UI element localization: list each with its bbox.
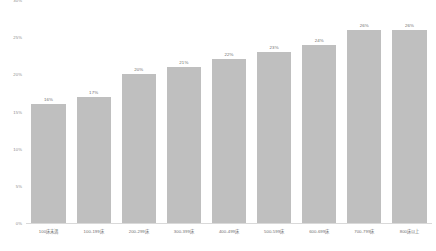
y-tick-label: 10% [13,146,22,151]
bar-chart: 0%5%10%15%20%25%30% 16%17%20%21%22%23%24… [0,0,436,251]
y-tick-label: 25% [13,35,22,40]
y-tick-label: 30% [13,0,22,3]
x-tick-label: 100床未満 [26,228,71,234]
x-tick-label: 800床以上 [387,228,432,234]
x-tick-label: 700-799床 [342,228,387,234]
x-tick-label: 200-299床 [116,228,161,234]
y-tick-label: 15% [13,109,22,114]
x-tick-label: 500-599床 [252,228,297,234]
x-tick-label: 600-699床 [297,228,342,234]
y-tick-label: 20% [13,72,22,77]
x-tick-label: 300-399床 [161,228,206,234]
x-tick-label: 100-199床 [71,228,116,234]
x-tick-label: 400-499床 [206,228,251,234]
y-tick-label: 5% [16,183,22,188]
y-tick-label: 0% [16,221,22,226]
x-axis-tick-labels: 100床未満100-199床200-299床300-399床400-499床50… [26,0,432,251]
